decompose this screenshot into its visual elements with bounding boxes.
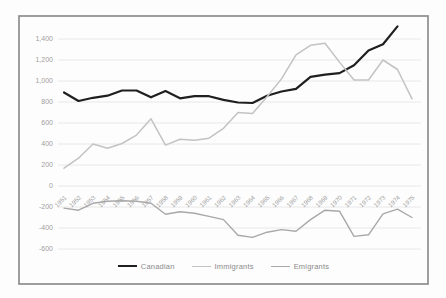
legend-line-swatch xyxy=(192,266,211,267)
x-tick-label-1962: 1962 xyxy=(213,193,228,208)
x-tick-label-1970: 1970 xyxy=(329,193,344,208)
x-tick-label-1963: 1963 xyxy=(227,193,242,208)
series-line-canadian xyxy=(64,26,398,103)
x-tick-label-1952: 1952 xyxy=(68,193,83,208)
y-tick-label: 1,400 xyxy=(35,35,53,42)
y-tick-label: 400 xyxy=(41,140,53,147)
y-tick-label: -600 xyxy=(39,245,53,252)
y-tick-label: 0 xyxy=(49,182,53,189)
x-tick-label-1958: 1958 xyxy=(155,193,170,208)
x-tick-label-1968: 1968 xyxy=(300,193,315,208)
population-chart: 1,4001,2001,0008006004002000-200-400-600… xyxy=(0,0,446,298)
legend-item-emigrants: Emigrants xyxy=(271,262,330,271)
chart-frame xyxy=(19,16,428,284)
legend: CanadianImmigrantsEmigrants xyxy=(19,259,428,273)
x-tick-label-1971: 1971 xyxy=(343,193,358,208)
x-tick-label-1965: 1965 xyxy=(256,193,271,208)
x-tick-label-1957: 1957 xyxy=(140,193,155,208)
x-tick-label-1951: 1951 xyxy=(53,193,68,208)
y-tick-label: 1,000 xyxy=(35,77,53,84)
y-tick-label: 600 xyxy=(41,119,53,126)
y-tick-label: 800 xyxy=(41,98,53,105)
legend-item-immigrants: Immigrants xyxy=(192,262,254,271)
x-tick-label-1953: 1953 xyxy=(82,193,97,208)
legend-line-swatch xyxy=(118,265,137,267)
x-tick-label-1972: 1972 xyxy=(358,193,373,208)
gridlines xyxy=(58,39,421,249)
legend-line-swatch xyxy=(271,266,290,267)
series-line-immigrants xyxy=(64,43,412,168)
legend-label: Immigrants xyxy=(215,262,254,271)
x-tick-label-1960: 1960 xyxy=(184,193,199,208)
x-tick-label-1966: 1966 xyxy=(271,193,286,208)
y-tick-label: -200 xyxy=(39,203,53,210)
legend-label: Canadian xyxy=(141,262,175,271)
y-tick-label: 1,200 xyxy=(35,56,53,63)
x-tick-label-1969: 1969 xyxy=(314,193,329,208)
x-tick-label-1974: 1974 xyxy=(387,193,402,208)
x-tick-label-1973: 1973 xyxy=(372,193,387,208)
x-tick-label-1959: 1959 xyxy=(169,193,184,208)
x-tick-label-1961: 1961 xyxy=(198,193,213,208)
y-tick-label: -400 xyxy=(39,224,53,231)
x-tick-label-1967: 1967 xyxy=(285,193,300,208)
x-tick-label-1975: 1975 xyxy=(401,193,416,208)
y-tick-label: 200 xyxy=(41,161,53,168)
legend-item-canadian: Canadian xyxy=(118,262,175,271)
legend-label: Emigrants xyxy=(294,262,330,271)
x-tick-label-1964: 1964 xyxy=(242,193,257,208)
y-axis-labels: 1,4001,2001,0008006004002000-200-400-600 xyxy=(35,35,53,252)
chart-figure: 1,4001,2001,0008006004002000-200-400-600… xyxy=(0,0,446,298)
